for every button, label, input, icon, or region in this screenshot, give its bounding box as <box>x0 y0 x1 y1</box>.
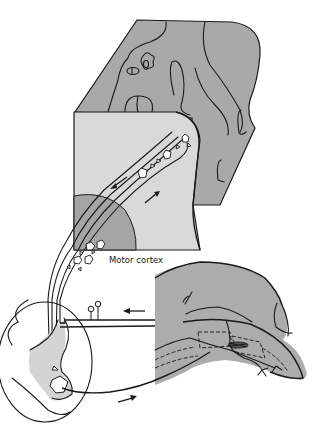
ganglion-cell-1 <box>88 306 94 312</box>
neuron-cell-3 <box>138 168 147 178</box>
spinal-cord-cross-section <box>0 300 92 422</box>
afferent-arrow-icon <box>123 308 145 314</box>
neuron-cell-6 <box>74 256 82 264</box>
hand-and-finger <box>155 262 307 385</box>
ganglion-cell-2 <box>95 301 101 307</box>
efferent-arrow-icon <box>118 395 137 402</box>
motor-cortex-section <box>74 112 200 250</box>
neuron-cell-7 <box>85 255 93 264</box>
motor-pathway-diagram: Motor cortex <box>0 0 316 430</box>
motor-cortex-label: Motor cortex <box>109 255 163 265</box>
